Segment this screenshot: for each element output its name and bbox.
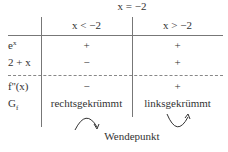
cell-curvature-right: linksgekrümmt bbox=[132, 97, 223, 109]
cell: − bbox=[41, 80, 132, 92]
cell: + bbox=[41, 39, 132, 51]
row-label-second-derivative: f''(x) bbox=[8, 80, 28, 92]
arc-arrow-concave-up-icon bbox=[163, 112, 193, 132]
arc-arrow-concave-down-icon bbox=[72, 112, 102, 132]
column-divider-left bbox=[41, 17, 42, 127]
cell: + bbox=[132, 39, 223, 51]
cell: + bbox=[132, 80, 223, 92]
inflection-point-label: Wendepunkt bbox=[92, 130, 172, 142]
cell: − bbox=[41, 56, 132, 68]
row-label-exp: ex bbox=[8, 39, 16, 51]
row-label-2plusx: 2 + x bbox=[8, 56, 31, 68]
cell: + bbox=[132, 56, 223, 68]
row-label-graph: Gf bbox=[8, 97, 18, 112]
dashed-separator bbox=[8, 75, 223, 76]
column-header-left: x < −2 bbox=[41, 19, 132, 31]
cell-curvature-left: rechtsgekrümmt bbox=[41, 97, 132, 109]
split-point-label: x = −2 bbox=[112, 0, 152, 12]
header-separator bbox=[8, 35, 223, 36]
column-header-right: x > −2 bbox=[132, 19, 223, 31]
